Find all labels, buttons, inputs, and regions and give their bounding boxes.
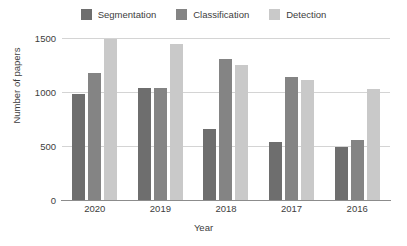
bar-segmentation-2020[interactable] [72,94,85,200]
bar-detection-2016[interactable] [367,89,380,200]
legend-label-detection: Detection [286,9,326,20]
x-tick-label-2019: 2019 [128,203,194,214]
x-tick-label-2016: 2016 [324,203,390,214]
legend-swatch-detection [269,9,280,20]
plot-area [62,38,390,200]
legend-item-segmentation[interactable]: Segmentation [81,9,157,20]
legend-label-segmentation: Segmentation [98,9,157,20]
bar-classification-2017[interactable] [285,77,298,200]
legend-item-classification[interactable]: Classification [176,9,249,20]
legend-swatch-segmentation [81,9,92,20]
legend-label-classification: Classification [193,9,249,20]
bar-group-2019 [128,38,194,200]
bar-detection-2018[interactable] [235,65,248,200]
y-tick-label-0: 0 [51,195,56,206]
bar-segmentation-2016[interactable] [335,147,348,200]
bar-segmentation-2019[interactable] [138,88,151,200]
bar-classification-2019[interactable] [154,88,167,200]
x-axis-title: Year [0,222,407,233]
bar-detection-2020[interactable] [104,39,117,200]
legend-item-detection[interactable]: Detection [269,9,326,20]
y-axis: 1500 1000 500 0 [18,38,56,200]
bar-classification-2018[interactable] [219,59,232,200]
bar-detection-2019[interactable] [170,44,183,200]
x-axis-line [61,200,391,201]
bar-chart: Segmentation Classification Detection 15… [0,0,407,246]
y-axis-title: Number of papers [11,26,22,146]
y-tick-label-500: 500 [40,141,56,152]
bar-classification-2020[interactable] [88,73,101,200]
bar-segmentation-2017[interactable] [269,142,282,200]
bar-group-2016 [324,38,390,200]
x-tick-label-2020: 2020 [62,203,128,214]
bar-group-2018 [193,38,259,200]
bar-group-2020 [62,38,128,200]
x-tick-label-2017: 2017 [259,203,325,214]
bar-detection-2017[interactable] [301,80,314,200]
bar-groups [62,38,390,200]
bar-segmentation-2018[interactable] [203,129,216,200]
y-tick-label-1000: 1000 [35,87,56,98]
x-tick-label-2018: 2018 [193,203,259,214]
bar-classification-2016[interactable] [351,140,364,200]
y-tick-label-1500: 1500 [35,33,56,44]
legend-swatch-classification [176,9,187,20]
chart-legend: Segmentation Classification Detection [0,9,407,20]
bar-group-2017 [259,38,325,200]
